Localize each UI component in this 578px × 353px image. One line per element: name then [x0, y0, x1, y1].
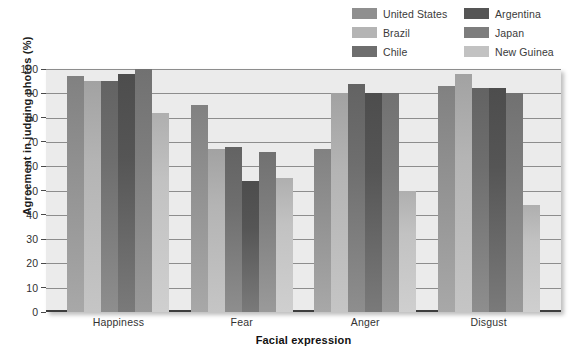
bar-body: [506, 93, 523, 312]
bar[interactable]: [438, 86, 455, 312]
y-axis-tick: 90: [26, 87, 46, 99]
bar-body: [276, 178, 293, 312]
y-axis-tick-label: 100: [20, 63, 38, 75]
bar-body: [472, 88, 489, 312]
bar[interactable]: [152, 113, 169, 312]
bar-body: [365, 93, 382, 312]
legend-entry[interactable]: Chile: [352, 42, 464, 61]
bar[interactable]: [348, 84, 365, 312]
bar-body: [314, 149, 331, 312]
y-axis-tick-label: 70: [26, 136, 38, 148]
y-axis-tick-label: 20: [26, 257, 38, 269]
bar-body: [399, 191, 416, 313]
y-axis-tick: 60: [26, 160, 46, 172]
legend-swatch-icon: [352, 27, 377, 38]
bar[interactable]: [489, 88, 506, 312]
bar-body: [208, 149, 225, 312]
legend-label: New Guinea: [495, 46, 554, 58]
x-axis-labels: HappinessFearAngerDisgust: [46, 316, 561, 334]
x-axis-category-label: Anger: [314, 316, 416, 328]
bar-group: [191, 69, 293, 312]
legend-entry[interactable]: Japan: [464, 23, 574, 42]
bar[interactable]: [314, 149, 331, 312]
legend-entry[interactable]: New Guinea: [464, 42, 574, 61]
bar[interactable]: [208, 149, 225, 312]
bar-chart-figure: United StatesArgentinaBrazilJapanChileNe…: [0, 0, 578, 353]
bar[interactable]: [331, 93, 348, 312]
y-axis-tick: 100: [20, 63, 46, 75]
bar-body: [118, 74, 135, 312]
x-axis-title: Facial expression: [46, 334, 561, 346]
y-axis-tick-label: 60: [26, 160, 38, 172]
bar-body: [259, 152, 276, 312]
bar[interactable]: [506, 93, 523, 312]
bar[interactable]: [399, 191, 416, 313]
legend-entry[interactable]: United States: [352, 4, 464, 23]
bar-body: [152, 113, 169, 312]
y-axis-tick: 0: [32, 306, 46, 318]
bar-body: [348, 84, 365, 312]
bar[interactable]: [135, 69, 152, 312]
x-axis-category-label: Happiness: [67, 316, 169, 328]
legend-label: Brazil: [383, 27, 410, 39]
bar[interactable]: [67, 76, 84, 312]
y-axis-tick-label: 90: [26, 87, 38, 99]
legend-label: Japan: [495, 27, 524, 39]
bar-body: [438, 86, 455, 312]
bar-body: [225, 147, 242, 312]
y-axis-tick-label: 40: [26, 209, 38, 221]
bar-body: [191, 105, 208, 312]
y-axis-tick: 80: [26, 112, 46, 124]
y-axis-tick-label: 0: [32, 306, 38, 318]
legend-label: United States: [383, 8, 447, 20]
x-axis-category-label: Fear: [191, 316, 293, 328]
bar[interactable]: [523, 205, 540, 312]
legend-swatch-icon: [464, 46, 489, 57]
y-axis-tick-label: 30: [26, 233, 38, 245]
bar-body: [101, 81, 118, 312]
y-axis-tick: 30: [26, 233, 46, 245]
bar[interactable]: [259, 152, 276, 312]
y-axis-tick: 10: [26, 282, 46, 294]
bar[interactable]: [118, 74, 135, 312]
bar[interactable]: [276, 178, 293, 312]
bar-body: [455, 74, 472, 312]
bar-body: [67, 76, 84, 312]
bar[interactable]: [101, 81, 118, 312]
bar[interactable]: [225, 147, 242, 312]
bar-body: [489, 88, 506, 312]
chart-legend: United StatesArgentinaBrazilJapanChileNe…: [352, 4, 574, 62]
bar-group: [314, 69, 416, 312]
legend-entry[interactable]: Argentina: [464, 4, 574, 23]
bar-body: [135, 69, 152, 312]
legend-swatch-icon: [352, 46, 377, 57]
legend-swatch-icon: [464, 8, 489, 19]
legend-label: Argentina: [495, 8, 541, 20]
bar-body: [84, 81, 101, 312]
legend-swatch-icon: [352, 8, 377, 19]
y-axis-tick-label: 10: [26, 282, 38, 294]
y-axis-tick-label: 80: [26, 112, 38, 124]
bar-body: [331, 93, 348, 312]
bar[interactable]: [472, 88, 489, 312]
bars-layer: [46, 69, 561, 312]
legend-label: Chile: [383, 46, 407, 58]
bar[interactable]: [382, 93, 399, 312]
bar-group: [67, 69, 169, 312]
bar-group: [438, 69, 540, 312]
y-axis-ticks: 1009080706050403020100: [0, 69, 46, 312]
y-axis-tick: 20: [26, 257, 46, 269]
bar[interactable]: [365, 93, 382, 312]
legend-swatch-icon: [464, 27, 489, 38]
y-axis-tick: 50: [26, 185, 46, 197]
y-axis-tick: 70: [26, 136, 46, 148]
x-axis-category-label: Disgust: [438, 316, 540, 328]
bar[interactable]: [455, 74, 472, 312]
y-axis-tick-label: 50: [26, 185, 38, 197]
bar[interactable]: [84, 81, 101, 312]
bar[interactable]: [242, 181, 259, 312]
bar[interactable]: [191, 105, 208, 312]
y-axis-tick: 40: [26, 209, 46, 221]
bar-body: [242, 181, 259, 312]
legend-entry[interactable]: Brazil: [352, 23, 464, 42]
